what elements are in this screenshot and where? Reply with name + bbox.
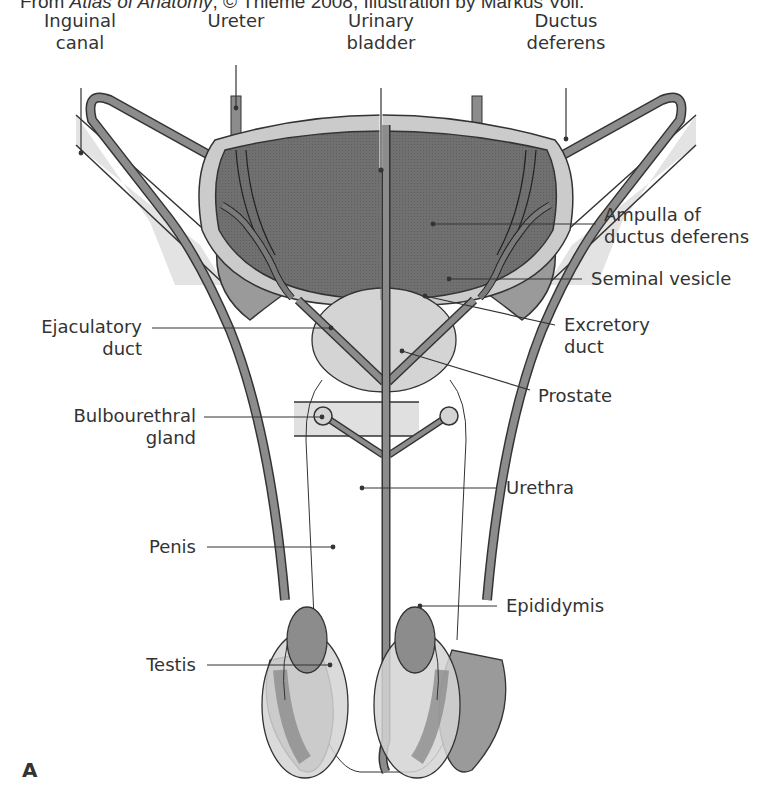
label-urinary-bladder: Urinary bladder [341, 10, 421, 54]
label-ductus-deferens: Ductus deferens [521, 10, 611, 54]
label-testis: Testis [100, 654, 196, 676]
label-bulbourethral-gland: Bulbourethral gland [50, 405, 196, 449]
label-ureter: Ureter [196, 10, 276, 32]
label-ejaculatory-duct: Ejaculatory duct [30, 316, 142, 360]
label-prostate: Prostate [538, 385, 612, 407]
figure-panel-label: A [22, 758, 37, 782]
anatomy-diagram [0, 0, 772, 803]
testis-right [374, 630, 506, 778]
epididymis-right [395, 607, 435, 673]
epididymis-left [287, 607, 327, 673]
label-urethra: Urethra [506, 477, 574, 499]
label-ampulla: Ampulla of ductus deferens [604, 204, 749, 248]
label-inguinal-canal: Inguinal canal [40, 10, 120, 54]
label-penis: Penis [100, 536, 196, 558]
label-seminal-vesicle: Seminal vesicle [591, 268, 731, 290]
urogenital-diaphragm [294, 402, 419, 436]
label-epididymis: Epididymis [506, 595, 604, 617]
label-excretory-duct: Excretory duct [564, 314, 650, 358]
